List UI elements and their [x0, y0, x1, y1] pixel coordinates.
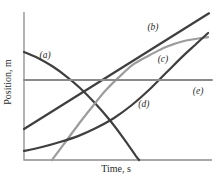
curve-labels-layer: (a)(b)(c)(d)(e): [40, 22, 204, 110]
curve-label-e: (e): [193, 86, 204, 97]
axes: [24, 12, 212, 160]
curve-label-c: (c): [158, 54, 169, 65]
x-axis-label: Time, s: [101, 163, 131, 174]
position-time-graph-figure: (a)(b)(c)(d)(e) Position, m Time, s: [0, 0, 220, 177]
curve-d: [24, 33, 208, 151]
curve-label-a: (a): [40, 50, 51, 61]
curves-layer: [24, 13, 212, 160]
curve-label-b: (b): [147, 22, 158, 33]
y-axis-label: Position, m: [2, 59, 13, 105]
curve-b: [24, 13, 209, 129]
chart-svg: (a)(b)(c)(d)(e) Position, m Time, s: [0, 0, 220, 177]
curve-label-d: (d): [138, 99, 149, 110]
